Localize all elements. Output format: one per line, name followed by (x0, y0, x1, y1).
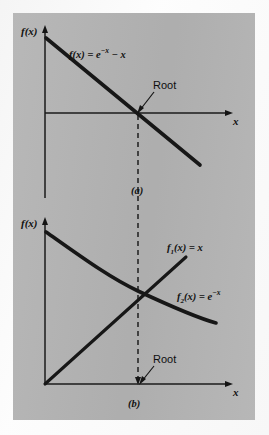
figure-container: f(x) x f(x) = e−x − x Root (a) f(x) x f1… (0, 0, 269, 435)
panel-b-line-label-rhs: x (197, 242, 202, 253)
panel-b-line-label-arg: (x) (174, 242, 186, 253)
panel-a-x-axis-label: x (233, 116, 239, 127)
panel-b-y-axis-arrowhead (42, 217, 48, 225)
panel-a-curve-label-lhs: f(x) (69, 49, 85, 60)
panel-a-curve-label: f(x) = e−x − x (69, 47, 126, 60)
panel-b-x-axis-arrowhead (225, 381, 233, 387)
panel-b-x-axis-label: x (233, 387, 239, 398)
panel-a-caption: (a) (131, 186, 143, 197)
panel-b-root-label: Root (153, 354, 176, 365)
panel-b-line-label: f1(x) = x (167, 243, 203, 256)
panel-a-curve-label-exponent: −x (101, 46, 109, 55)
panel-b-curve-label-arg: (x) (184, 291, 196, 302)
panel-b-y-axis-label: f(x) (21, 218, 38, 229)
plot-drawing-layer (0, 0, 269, 435)
panel-a-y-axis-arrowhead (42, 25, 48, 33)
panel-a-x-axis-arrowhead (225, 110, 233, 116)
panel-a-y-axis-label: f(x) (21, 26, 38, 37)
panel-a-root-label: Root (153, 80, 176, 91)
panel-b-caption: (b) (128, 399, 140, 410)
panel-b-curve-label: f2(x) = e−x (177, 289, 220, 305)
panel-b-curve-label-exponent: −x (212, 288, 220, 297)
panel-a-curve-label-tail: − x (112, 49, 126, 60)
